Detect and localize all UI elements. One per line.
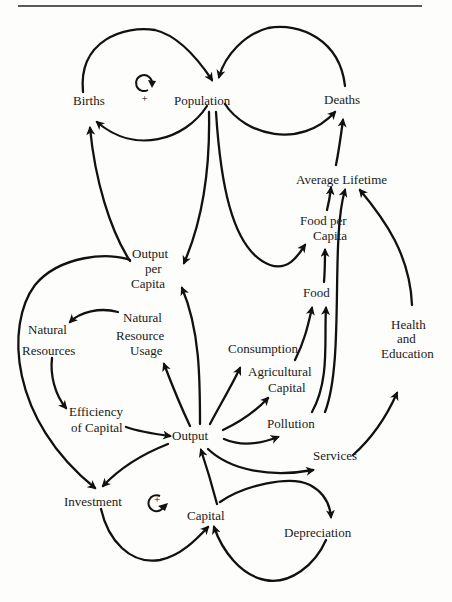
edge-population-births xyxy=(97,106,207,140)
edge-output-agcap xyxy=(223,398,268,430)
edge-population-deaths xyxy=(225,104,335,135)
node-efficiency-of-capital-line1: Efficiency xyxy=(69,404,123,419)
node-natural-resource-usage-line2: Resource xyxy=(116,328,164,343)
edge-output-consumption xyxy=(210,368,240,424)
node-agricultural-capital-line1: Agricultural xyxy=(248,364,312,379)
node-health-education-line2: and xyxy=(397,331,416,346)
edge-deaths-population xyxy=(219,27,345,86)
causal-loop-diagram: + + Births Population Deaths Average Lif… xyxy=(0,0,452,602)
edge-capital-output xyxy=(201,450,217,504)
node-deaths: Deaths xyxy=(324,92,360,107)
edge-nr-efficiency xyxy=(52,358,66,408)
node-output-per-capita-line3: Capita xyxy=(131,276,165,291)
edge-foodpc-lifetime xyxy=(327,188,331,210)
node-food-per-capita-line2: Capita xyxy=(313,228,347,243)
node-population: Population xyxy=(174,93,230,108)
edge-pollution-food xyxy=(312,308,326,412)
node-efficiency-of-capital-line2: of Capital xyxy=(71,420,123,435)
node-average-lifetime: Average Lifetime xyxy=(296,172,387,187)
node-natural-resources-line1: Natural xyxy=(28,322,67,337)
node-agricultural-capital-line2: Capital xyxy=(268,380,306,395)
edge-output-outputpc xyxy=(182,288,200,424)
edge-outputpc-births xyxy=(90,128,130,261)
edge-health-lifetime xyxy=(360,190,412,305)
edge-output-pollution xyxy=(224,437,278,443)
node-natural-resource-usage-line1: Natural xyxy=(123,310,162,325)
edge-births-population xyxy=(83,29,212,92)
node-food-per-capita-line1: Food per xyxy=(300,213,347,228)
node-output-per-capita-line1: Output xyxy=(132,246,168,261)
reinforcing-loop-icon-population: + xyxy=(136,75,156,104)
node-depreciation: Depreciation xyxy=(284,525,351,540)
edge-outputpc-investment xyxy=(18,256,130,488)
node-natural-resource-usage-line3: Usage xyxy=(130,343,163,358)
edge-capital-depreciation xyxy=(220,481,331,517)
loop-sign-plus: + xyxy=(142,92,148,104)
node-output-per-capita-line2: per xyxy=(145,261,162,276)
node-food: Food xyxy=(303,285,330,300)
node-output: Output xyxy=(172,428,208,443)
reinforcing-loop-icon-capital: + xyxy=(149,493,168,511)
edge-services-health xyxy=(353,393,397,455)
edge-population-outputpc xyxy=(184,112,209,263)
node-capital: Capital xyxy=(187,508,225,523)
edge-lifetime-deaths xyxy=(336,120,343,165)
edge-output-investment xyxy=(103,444,168,486)
edge-output-services xyxy=(208,449,313,473)
node-consumption: Consumption xyxy=(228,341,298,356)
loop-sign-plus: + xyxy=(154,493,160,505)
edge-food-foodpc xyxy=(324,250,325,282)
node-births: Births xyxy=(73,93,105,108)
node-investment: Investment xyxy=(64,494,122,509)
node-pollution: Pollution xyxy=(267,416,315,431)
node-natural-resources-line2: Resources xyxy=(22,343,75,358)
edge-output-nru xyxy=(164,364,190,426)
diagram-edges: + + xyxy=(0,0,452,602)
edge-nru-nr xyxy=(70,310,118,322)
node-health-education-line3: Education xyxy=(381,346,434,361)
node-health-education-line1: Health xyxy=(391,317,426,332)
edge-efficiency-output xyxy=(126,427,170,436)
node-services: Services xyxy=(313,448,357,463)
